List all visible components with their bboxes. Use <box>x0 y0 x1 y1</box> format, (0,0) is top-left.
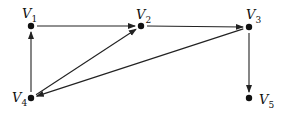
node-label-v1: V1 <box>22 7 37 24</box>
node-label-v4: V4 <box>12 91 27 108</box>
directed-graph: V1V2V3V4V5 <box>0 0 285 114</box>
node-v1 <box>28 23 34 29</box>
node-label-v3: V3 <box>246 8 261 25</box>
node-v5 <box>246 95 252 101</box>
node-label-v5: V5 <box>259 93 274 110</box>
edge-v3-to-v4 <box>37 29 244 96</box>
node-v3 <box>246 24 252 30</box>
edge-v4-to-v2 <box>36 29 136 94</box>
edge-v2-to-v3 <box>147 26 243 27</box>
node-v4 <box>28 95 34 101</box>
node-label-v2: V2 <box>136 8 151 25</box>
